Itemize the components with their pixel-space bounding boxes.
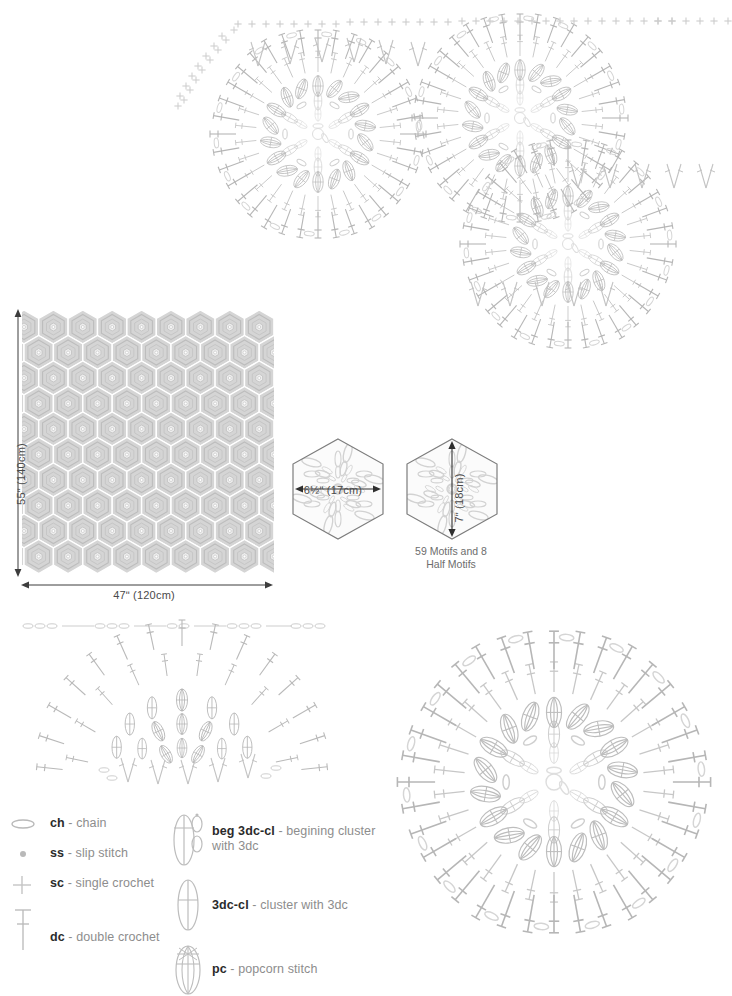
full-motif-chart	[376, 596, 732, 968]
blanket-width-label: 47ʺ (120cm)	[74, 589, 214, 601]
legend-label-beg-3dc-cl: beg 3dc-cl - begining cluster with 3dc	[208, 812, 380, 854]
legend-label-3dc-cl: 3dc-cl - cluster with 3dc	[208, 878, 348, 913]
motif-height-diagram	[404, 437, 500, 541]
single-crochet-icon	[0, 876, 46, 894]
assembly-motif-topright	[412, 14, 628, 222]
assembly-motif-bottomright	[460, 140, 676, 348]
motif-width-label: 6½ʺ (17cm)	[281, 484, 385, 496]
assembly-chart	[178, 6, 732, 316]
legend-item-ss: ss - slip stitch	[0, 846, 128, 862]
popcorn-icon	[168, 942, 208, 996]
legend-label-dc: dc - double crochet	[46, 914, 160, 945]
half-motif-bottom-vpairs	[99, 754, 281, 784]
beg-3dc-cluster-icon	[168, 812, 208, 868]
half-motif-chart	[4, 612, 360, 790]
legend-label-ss: ss - slip stitch	[46, 846, 128, 861]
legend-item-dc: dc - double crochet	[0, 906, 160, 952]
legend-item-sc: sc - single crochet	[0, 876, 154, 894]
half-motif-top-chain	[23, 624, 325, 628]
assembly-motif-left	[210, 30, 426, 238]
legend-item-ch: ch - chain	[0, 816, 107, 832]
half-motif-clusters	[103, 689, 261, 765]
motif-height-label: 7ʺ (18cm)	[453, 463, 465, 533]
legend-label-pc: pc - popcorn stitch	[208, 942, 317, 977]
slip-stitch-icon	[0, 846, 46, 862]
legend-item-pc: pc - popcorn stitch	[168, 942, 317, 996]
legend-label-ch: ch - chain	[46, 816, 107, 831]
assembly-left-edging	[174, 26, 237, 109]
motif-count-label: 59 Motifs and 8 Half Motifs	[392, 545, 510, 571]
chain-icon	[0, 816, 46, 832]
double-crochet-icon	[0, 906, 46, 952]
legend-label-sc: sc - single crochet	[46, 876, 154, 891]
blanket-height-label: 55ʺ (140cm)	[15, 439, 27, 509]
legend-item-3dc-cl: 3dc-cl - cluster with 3dc	[168, 878, 348, 932]
legend-item-beg-3dc-cl: beg 3dc-cl - begining cluster with 3dc	[168, 812, 380, 868]
3dc-cluster-icon	[168, 878, 208, 932]
